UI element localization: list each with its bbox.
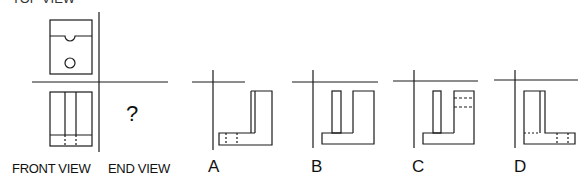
end-view-label: END VIEW xyxy=(108,161,170,176)
main-axes xyxy=(32,12,168,152)
option-c-drawing xyxy=(393,70,478,148)
option-a-label[interactable]: A xyxy=(208,157,219,177)
top-view-drawing xyxy=(50,20,92,74)
front-view-label: FRONT VIEW xyxy=(12,161,90,176)
front-view-drawing xyxy=(50,92,92,146)
option-a-drawing xyxy=(192,70,272,150)
option-d-label[interactable]: D xyxy=(514,157,526,177)
option-d-drawing xyxy=(494,70,578,148)
option-b-label[interactable]: B xyxy=(311,157,322,177)
option-b-drawing xyxy=(292,70,378,148)
end-view-unknown: ? xyxy=(126,101,138,127)
option-c-label[interactable]: C xyxy=(412,157,424,177)
